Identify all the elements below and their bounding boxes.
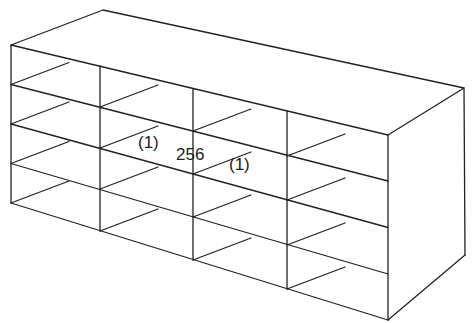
capacity-label: 256 [176, 146, 204, 163]
right-bottom-edge [388, 255, 465, 320]
left-count-label: (1) [138, 134, 159, 151]
right-back-edge [464, 88, 465, 255]
right-count-label: (1) [229, 156, 250, 173]
shelf-line-1 [11, 85, 388, 182]
front-bottom-edge [11, 203, 388, 320]
top-face [11, 10, 464, 135]
